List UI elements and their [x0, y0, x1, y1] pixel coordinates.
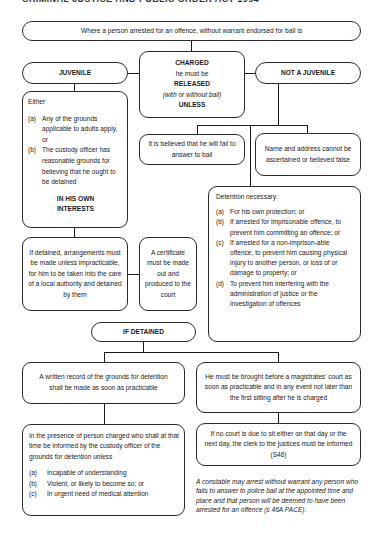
detention-title: Detention necessary: — [216, 192, 354, 202]
connector-adult-branch — [197, 125, 308, 126]
juvenile-grounds-emphasis: IN HIS OWN INTERESTS — [42, 194, 109, 215]
connector-charged-to-juvenile — [128, 73, 139, 74]
if-detained-box: IF DETAINED — [91, 322, 196, 342]
list-item: (c)In urgent need of medical attention — [29, 489, 179, 499]
list-item: (c)If arrested for a non-imprison-able o… — [216, 238, 354, 279]
presence-intro: In the presence of person charged who sh… — [29, 431, 179, 462]
not-juvenile-label: NOT A JUVENILE — [281, 69, 335, 77]
connector-to-written-record — [104, 352, 105, 362]
list-item: (b)The custody officer has reasonable gr… — [28, 145, 123, 187]
connector-to-magistrates — [278, 352, 279, 362]
charged-line5: UNLESS — [179, 100, 206, 111]
fail-to-answer-text: It is believed that he will fail to answ… — [145, 139, 239, 160]
page-header: CRIMINAL JUSTICE AND PUBLIC ORDER ACT 19… — [22, 0, 259, 4]
local-authority-box: If detained, arrangements must be made u… — [22, 237, 128, 311]
connector-to-fail-answer — [197, 125, 198, 134]
certificate-box: A certificate must be made out and produ… — [139, 237, 197, 311]
connector-charged-to-not-juvenile — [245, 73, 255, 74]
connector-record-to-presence — [104, 404, 105, 424]
name-address-box: Name and address cannot be ascertained o… — [255, 133, 361, 176]
top-condition-box: Where a person arrested for an offence, … — [22, 21, 361, 41]
list-item: (a)For his own protection; or — [216, 207, 354, 217]
presence-box: In the presence of person charged who sh… — [22, 424, 185, 516]
if-detained-label: IF DETAINED — [123, 328, 164, 336]
connector-top-to-charged — [191, 41, 192, 51]
detention-necessary-box: Detention necessary: (a)For his own prot… — [208, 186, 361, 342]
list-item: (d)To prevent him interfering with the a… — [216, 279, 354, 310]
local-authority-text: If detained, arrangements must be made u… — [27, 248, 123, 301]
no-court-text: If no court is due to sit either on that… — [204, 429, 353, 461]
connector-if-detained-down — [143, 342, 144, 352]
name-address-text: Name and address cannot be ascertained o… — [262, 144, 354, 165]
connector-to-detention — [250, 125, 251, 186]
charged-box: CHARGED he must be RELEASED (with or wit… — [139, 51, 245, 118]
magistrates-box: He must be brought before a magistrates'… — [196, 362, 361, 413]
written-record-box: A written record of the grounds for dete… — [22, 362, 185, 404]
charged-line3: RELEASED — [174, 79, 210, 90]
footnote: A constable may arrest without warrant a… — [196, 477, 361, 514]
list-item: (b)Violent, or likely to become so; or — [29, 479, 179, 489]
presence-list: (a)Incapable of understanding (b)Violent… — [29, 468, 179, 499]
juvenile-grounds-box: Either (a)Any of the grounds applicable … — [22, 91, 128, 228]
connector-care-to-certificate — [128, 274, 139, 275]
connector-to-name-address — [307, 125, 308, 133]
connector-detained-branch — [104, 352, 279, 353]
juvenile-grounds-intro: Either — [28, 97, 123, 108]
connector-magistrates-to-no-court — [278, 413, 279, 423]
connector-juvenile-down — [74, 84, 75, 91]
charged-line2: he must be — [176, 69, 209, 80]
charged-line4: (with or without bail) — [163, 90, 222, 101]
certificate-text: A certificate must be made out and produ… — [143, 248, 193, 301]
connector-juvenile-to-care — [74, 228, 75, 237]
top-condition-text: Where a person arrested for an offence, … — [81, 27, 302, 35]
no-court-box: If no court is due to sit either on that… — [196, 423, 361, 466]
fail-to-answer-box: It is believed that he will fail to answ… — [139, 134, 245, 165]
list-item: (a)Incapable of understanding — [29, 468, 179, 478]
detention-list: (a)For his own protection; or (b)If arre… — [216, 207, 354, 309]
list-item: (a)Any of the grounds applicable to adul… — [28, 114, 123, 146]
connector-not-juvenile-down — [278, 84, 279, 126]
charged-line1: CHARGED — [175, 58, 208, 69]
list-item: (b)If arrested for imprisonable offence,… — [216, 217, 354, 237]
magistrates-text: He must be brought before a magistrates'… — [203, 372, 354, 404]
juvenile-grounds-list: (a)Any of the grounds applicable to adul… — [28, 114, 123, 188]
not-juvenile-box: NOT A JUVENILE — [255, 62, 361, 84]
written-record-text: A written record of the grounds for dete… — [35, 372, 172, 393]
juvenile-box: JUVENILE — [22, 62, 128, 84]
juvenile-label: JUVENILE — [59, 69, 91, 77]
